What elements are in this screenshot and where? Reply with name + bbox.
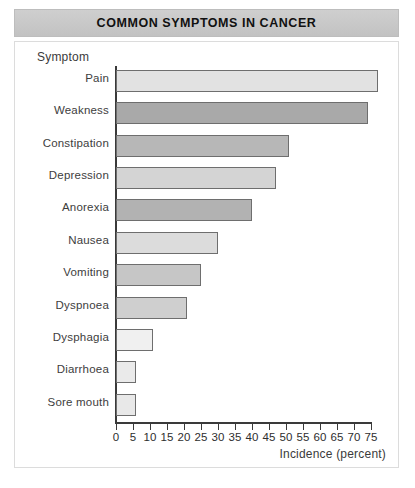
bar-category-label: Weakness <box>54 104 109 116</box>
bar-category-label: Constipation <box>43 137 109 149</box>
page-title: COMMON SYMPTOMS IN CANCER <box>97 16 317 30</box>
x-tick-label: 10 <box>144 431 157 443</box>
x-tick-label: 70 <box>348 431 361 443</box>
x-tick <box>320 424 321 430</box>
bar-category-label: Sore mouth <box>48 396 109 408</box>
x-axis-title: Incidence (percent) <box>15 447 386 461</box>
bar-category-label: Depression <box>49 169 109 181</box>
bar-row: Pain <box>116 66 371 98</box>
bar <box>116 361 136 383</box>
chart-figure: COMMON SYMPTOMS IN CANCER Symptom PainWe… <box>0 0 415 488</box>
x-tick-label: 20 <box>178 431 191 443</box>
bar <box>116 264 201 286</box>
x-tick <box>286 424 287 430</box>
bar-row: Constipation <box>116 131 371 163</box>
x-tick <box>201 424 202 430</box>
bar-row: Sore mouth <box>116 390 371 422</box>
x-tick-label: 75 <box>365 431 378 443</box>
bar <box>116 135 289 157</box>
x-tick <box>337 424 338 430</box>
bar-category-label: Vomiting <box>63 266 109 278</box>
x-tick <box>303 424 304 430</box>
bar <box>116 394 136 416</box>
x-tick-label: 60 <box>314 431 327 443</box>
x-tick <box>116 424 117 430</box>
chart-title-banner: COMMON SYMPTOMS IN CANCER <box>14 9 399 37</box>
x-tick-label: 30 <box>212 431 225 443</box>
x-tick <box>371 424 372 430</box>
bar <box>116 297 187 319</box>
bar <box>116 102 368 124</box>
bar-row: Nausea <box>116 228 371 260</box>
bar-row: Vomiting <box>116 260 371 292</box>
y-axis-title: Symptom <box>37 50 89 64</box>
x-tick-label: 35 <box>229 431 242 443</box>
bar-row: Anorexia <box>116 195 371 227</box>
bar-row: Dyspnoea <box>116 293 371 325</box>
x-axis: 051015202530354045505560657075 <box>116 422 371 423</box>
x-tick <box>252 424 253 430</box>
x-tick <box>167 424 168 430</box>
bar <box>116 232 218 254</box>
bar <box>116 199 252 221</box>
bar <box>116 329 153 351</box>
x-tick-label: 45 <box>263 431 276 443</box>
bar-row: Weakness <box>116 98 371 130</box>
bar <box>116 70 378 92</box>
plot-frame: Symptom PainWeaknessConstipationDepressi… <box>14 41 399 468</box>
x-tick-label: 55 <box>297 431 310 443</box>
x-tick-label: 25 <box>195 431 208 443</box>
x-tick <box>354 424 355 430</box>
bar-category-label: Dysphagia <box>53 331 109 343</box>
x-tick <box>235 424 236 430</box>
x-tick-label: 5 <box>130 431 136 443</box>
bar <box>116 167 276 189</box>
x-tick-label: 50 <box>280 431 293 443</box>
x-tick-label: 40 <box>246 431 259 443</box>
x-tick <box>218 424 219 430</box>
bar-row: Dysphagia <box>116 325 371 357</box>
x-tick-label: 65 <box>331 431 344 443</box>
bar-category-label: Diarrhoea <box>57 363 109 375</box>
bar-row: Diarrhoea <box>116 357 371 389</box>
plot-area: PainWeaknessConstipationDepressionAnorex… <box>116 66 371 422</box>
bar-row: Depression <box>116 163 371 195</box>
bar-category-label: Pain <box>85 72 109 84</box>
x-tick <box>269 424 270 430</box>
x-tick <box>184 424 185 430</box>
x-tick <box>133 424 134 430</box>
x-tick <box>150 424 151 430</box>
bar-category-label: Nausea <box>68 234 109 246</box>
bar-category-label: Dyspnoea <box>56 299 109 311</box>
bar-category-label: Anorexia <box>62 201 109 213</box>
x-axis-line <box>115 422 372 424</box>
x-tick-label: 15 <box>161 431 174 443</box>
x-tick-label: 0 <box>113 431 119 443</box>
